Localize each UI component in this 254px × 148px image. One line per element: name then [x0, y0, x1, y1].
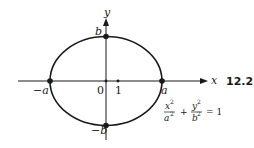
y-axis-label: y: [103, 6, 111, 19]
vertex-neg-a: [47, 78, 53, 84]
label-pos-b: b: [95, 25, 102, 38]
label-origin: 0: [97, 84, 104, 97]
eq-exp-2: 2: [170, 110, 174, 117]
eq-equals-one: = 1: [206, 107, 222, 117]
eq-exp-1: 2: [170, 98, 174, 105]
unit-dot: [117, 80, 120, 83]
x-axis-label: x: [211, 74, 218, 87]
eq-den-a: a: [164, 113, 169, 123]
label-neg-b: −b: [91, 124, 107, 137]
ellipse-diagram: x y b −b −a a 0 1 12.2 x 2 a 2 + y 2 b 2…: [0, 0, 254, 148]
eq-exp-3: 2: [197, 98, 201, 105]
x-axis-arrow-icon: [200, 78, 208, 84]
figure-number: 12.2: [226, 75, 253, 88]
ellipse-equation: x 2 a 2 + y 2 b 2 = 1: [164, 98, 222, 123]
label-one: 1: [115, 84, 122, 97]
label-pos-a: a: [161, 84, 168, 97]
eq-plus: +: [180, 107, 188, 117]
origin-dot: [105, 80, 108, 83]
y-axis-arrow-icon: [103, 18, 109, 26]
eq-exp-4: 2: [197, 110, 201, 117]
vertex-pos-a: [159, 78, 165, 84]
label-neg-a: −a: [33, 84, 49, 97]
vertex-pos-b: [103, 34, 109, 40]
